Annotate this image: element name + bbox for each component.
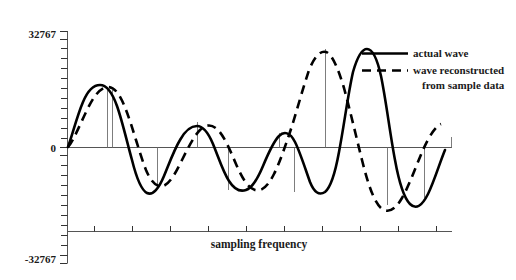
legend-label-reconstructed-line1: wave reconstructed <box>413 64 504 76</box>
x-axis-title: sampling frequency <box>211 238 308 251</box>
waveform-chart: 32767 0 -32767 <box>0 0 516 280</box>
sampling-frequency-axis: sampling frequency <box>68 226 453 251</box>
wave-actual-line <box>68 49 445 207</box>
legend-label-actual: actual wave <box>413 47 468 59</box>
y-axis: 32767 0 -32767 <box>25 28 68 265</box>
legend-label-reconstructed-line2: from sample data <box>422 79 505 91</box>
y-tick-label-min: -32767 <box>25 253 57 265</box>
y-tick-label-max: 32767 <box>29 28 57 40</box>
y-tick-label-zero: 0 <box>51 142 57 154</box>
chart-container: 32767 0 -32767 <box>0 0 516 280</box>
